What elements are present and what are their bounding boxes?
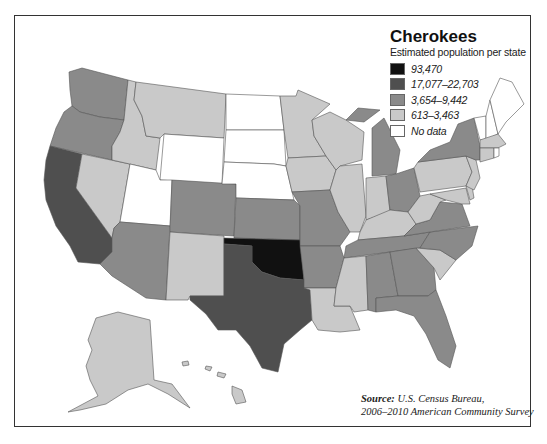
state-new-mexico (166, 232, 224, 300)
state-rhode-island (494, 148, 499, 158)
legend-swatch (390, 78, 405, 90)
state-wyoming (160, 134, 224, 184)
state-north-dakota (226, 94, 284, 130)
legend-label: 613–3,463 (411, 109, 459, 121)
source-note: Source: U.S. Census Bureau, 2006–2010 Am… (361, 392, 534, 418)
state-iowa (286, 156, 336, 192)
map-title: Cherokees (390, 28, 530, 46)
map-subtitle: Estimated population per state (390, 46, 530, 59)
legend-label: 17,077–22,703 (411, 78, 478, 90)
legend-swatch (390, 125, 405, 137)
legend-label: 3,654–9,442 (411, 94, 467, 106)
state-alaska (68, 312, 190, 412)
state-connecticut (480, 148, 494, 162)
source-line-1: U.S. Census Bureau, (397, 393, 484, 404)
legend-item: No data (390, 123, 530, 139)
legend-label: 93,470 (411, 63, 442, 75)
state-colorado (170, 180, 236, 236)
legend-item: 17,077–22,703 (390, 77, 530, 93)
legend-item: 613–3,463 (390, 108, 530, 124)
state-florida (376, 290, 456, 368)
source-label: Source: (361, 393, 395, 404)
legend-swatch (390, 63, 405, 75)
legend-item: 93,470 (390, 61, 530, 77)
legend-item: 3,654–9,442 (390, 92, 530, 108)
legend-swatch (390, 94, 405, 106)
state-hawaii (182, 361, 246, 404)
legend: Cherokees Estimated population per state… (390, 28, 530, 139)
state-montana (134, 82, 226, 138)
state-south-dakota (224, 130, 286, 166)
legend-label: No data (411, 125, 446, 137)
source-line-2: 2006–2010 American Community Survey (361, 405, 534, 418)
state-kansas (234, 198, 300, 240)
legend-swatch (390, 109, 405, 121)
